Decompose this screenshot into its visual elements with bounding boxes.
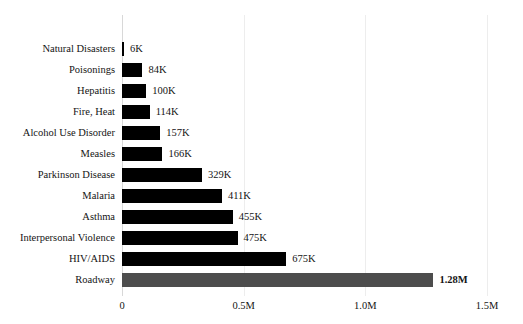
bar-value-label: 114K [150, 101, 179, 122]
bar-value-label: 100K [146, 80, 175, 101]
bar [122, 147, 162, 161]
bar-row: Measles166K [122, 143, 487, 164]
x-tick-label: 0 [119, 298, 124, 314]
category-label: Poisonings [4, 59, 122, 80]
bar-value-label: 157K [160, 122, 189, 143]
bar-value-label: 6K [124, 38, 143, 59]
gridline [487, 15, 488, 296]
category-label: Interpersonal Violence [4, 227, 122, 248]
bar-row: Asthma455K [122, 206, 487, 227]
bar [122, 273, 433, 287]
bar [122, 252, 286, 266]
bar [122, 84, 146, 98]
x-axis: 00.5M1.0M1.5M [122, 298, 487, 318]
category-label: Asthma [4, 206, 122, 227]
bar-row: Poisonings84K [122, 59, 487, 80]
x-tick-label: 1.5M [476, 298, 498, 314]
bar-chart: Natural Disasters6KPoisonings84KHepatiti… [0, 0, 523, 324]
bar-value-label: 84K [142, 59, 166, 80]
bar-value-label: 475K [238, 227, 267, 248]
category-label: Fire, Heat [4, 101, 122, 122]
category-label: Malaria [4, 185, 122, 206]
category-label: Hepatitis [4, 80, 122, 101]
bar-row: Interpersonal Violence475K [122, 227, 487, 248]
bar-row: Fire, Heat114K [122, 101, 487, 122]
bar-row: Alcohol Use Disorder157K [122, 122, 487, 143]
bar-rows: Natural Disasters6KPoisonings84KHepatiti… [122, 15, 487, 296]
bar [122, 189, 222, 203]
bar-row: Parkinson Disease329K [122, 164, 487, 185]
bar-value-label: 455K [233, 206, 262, 227]
bar [122, 231, 238, 245]
bar-value-label: 675K [286, 248, 315, 269]
bar-row: Hepatitis100K [122, 80, 487, 101]
bar-value-label: 411K [222, 185, 251, 206]
bar-row: Roadway1.28M [122, 269, 487, 290]
bar [122, 168, 202, 182]
category-label: Roadway [4, 269, 122, 290]
category-label: Parkinson Disease [4, 164, 122, 185]
category-label: Natural Disasters [4, 38, 122, 59]
bar [122, 210, 233, 224]
bar-value-label: 166K [162, 143, 191, 164]
bar [122, 63, 142, 77]
bar [122, 105, 150, 119]
bar-value-label: 1.28M [433, 269, 467, 290]
plot-area: Natural Disasters6KPoisonings84KHepatiti… [122, 15, 487, 296]
bar [122, 126, 160, 140]
category-label: Measles [4, 143, 122, 164]
x-tick-label: 1.0M [354, 298, 376, 314]
category-label: Alcohol Use Disorder [4, 122, 122, 143]
category-label: HIV/AIDS [4, 248, 122, 269]
bar-row: Malaria411K [122, 185, 487, 206]
x-tick-label: 0.5M [232, 298, 254, 314]
bar-value-label: 329K [202, 164, 231, 185]
bar-row: Natural Disasters6K [122, 38, 487, 59]
bar-row: HIV/AIDS675K [122, 248, 487, 269]
